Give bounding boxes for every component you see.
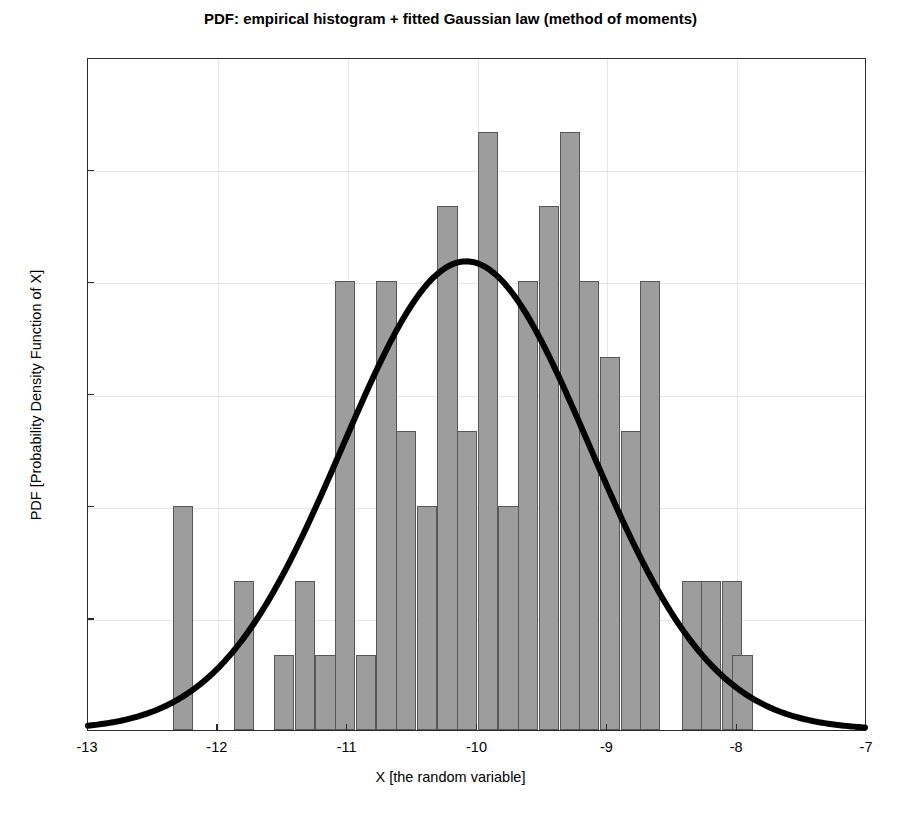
x-tick-mark	[606, 724, 607, 731]
x-tick-label: -13	[77, 739, 98, 755]
chart-figure: PDF: empirical histogram + fitted Gaussi…	[0, 0, 901, 819]
x-tick-mark	[346, 724, 347, 731]
x-axis-title: X [the random variable]	[0, 769, 901, 785]
x-axis-ticks: -13-12-11-10-9-8-7	[0, 0, 901, 819]
x-tick-label: -10	[466, 739, 487, 755]
x-tick-label: -7	[860, 739, 873, 755]
x-tick-label: -8	[730, 739, 743, 755]
x-tick-mark	[736, 724, 737, 731]
x-tick-mark	[476, 724, 477, 731]
x-tick-label: -11	[337, 739, 357, 755]
y-axis-title: PDF [Probability Density Function of X]	[28, 269, 44, 520]
x-tick-mark	[216, 724, 217, 731]
x-tick-label: -9	[600, 739, 613, 755]
x-tick-label: -12	[206, 739, 227, 755]
